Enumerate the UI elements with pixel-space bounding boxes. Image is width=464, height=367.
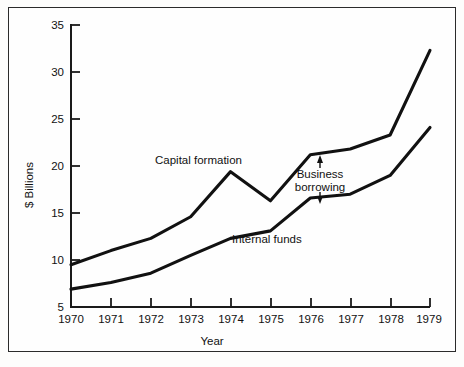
- x-tick-label-1976: 1976: [298, 313, 324, 325]
- x-tick-label-1977: 1977: [338, 313, 364, 325]
- annotation-label-line2: borrowing: [295, 181, 346, 193]
- x-tick-label-1975: 1975: [258, 313, 284, 325]
- x-tick-label-1970: 1970: [58, 313, 84, 325]
- x-tick-label-1971: 1971: [98, 313, 124, 325]
- x-axis-title: Year: [200, 335, 223, 347]
- x-axis-tick-labels: 1970 1971 1972 1973 1974 1975 1976 1977 …: [58, 313, 442, 325]
- series-label-internal-funds: Internal funds: [232, 233, 302, 245]
- y-tick-label-25: 25: [51, 113, 64, 125]
- y-axis-title: $ Billions: [23, 162, 35, 208]
- annotation-label-line1: Business: [297, 168, 344, 180]
- series-label-capital-formation: Capital formation: [155, 154, 242, 166]
- series-line-internal-funds: [71, 127, 430, 289]
- y-tick-label-15: 15: [51, 207, 64, 219]
- line-chart: 35 30 25 20 15 10 5 $ Billions 1970 1971: [0, 0, 464, 367]
- annotation-arrow-down-head: [317, 196, 323, 204]
- x-tick-label-1972: 1972: [138, 313, 164, 325]
- x-axis-ticks: [71, 298, 430, 307]
- y-axis-tick-labels: 35 30 25 20 15 10 5: [51, 19, 64, 313]
- y-tick-label-30: 30: [51, 66, 64, 78]
- y-tick-label-20: 20: [51, 160, 64, 172]
- x-tick-label-1978: 1978: [378, 313, 404, 325]
- y-tick-label-10: 10: [51, 254, 64, 266]
- x-tick-label-1979: 1979: [416, 313, 442, 325]
- y-tick-label-5: 5: [58, 301, 64, 313]
- chart-figure: 35 30 25 20 15 10 5 $ Billions 1970 1971: [0, 0, 464, 367]
- y-tick-label-35: 35: [51, 19, 64, 31]
- x-tick-label-1974: 1974: [218, 313, 244, 325]
- annotation-arrow-up-head: [317, 155, 323, 163]
- axis-lines: [70, 24, 430, 308]
- x-tick-label-1973: 1973: [178, 313, 204, 325]
